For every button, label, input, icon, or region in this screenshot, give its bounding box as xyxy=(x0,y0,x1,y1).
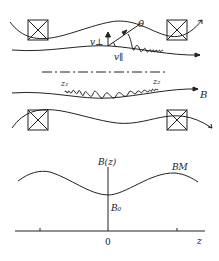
z1-label: z₁ xyxy=(60,79,68,88)
v-perp-label: v⊥ xyxy=(90,37,104,47)
coil-top-right xyxy=(167,20,187,40)
inner-field-line-top xyxy=(12,46,200,55)
y-axis-label: B(z) xyxy=(97,157,117,167)
theta-label: θ xyxy=(138,18,144,29)
coil-bottom-right xyxy=(167,110,187,130)
magnetic-mirror-diagram: θ v⊥ v∥ z₁ z₂ B B(z) BM B₀ 0 z xyxy=(0,0,219,261)
origin-label: 0 xyxy=(105,237,111,247)
b0-label: B₀ xyxy=(110,203,122,213)
x-axis-label: z xyxy=(196,236,202,246)
coil-bottom-left xyxy=(28,110,48,130)
b-field-label: B xyxy=(199,89,207,100)
bm-label: BM xyxy=(171,162,189,172)
z2-label: z₂ xyxy=(152,77,160,86)
v-parallel-label: v∥ xyxy=(114,52,123,62)
helix-top xyxy=(128,34,163,52)
